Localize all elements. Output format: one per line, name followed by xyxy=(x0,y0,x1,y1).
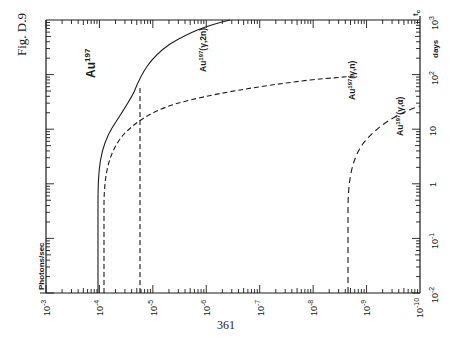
x-axis-title: Photons/sec xyxy=(37,242,46,290)
ytick-label: 10-2 xyxy=(428,287,440,303)
ytick-label: 103 xyxy=(428,16,440,30)
xtick-label: 10-5 xyxy=(147,300,159,316)
curve-gamma-n xyxy=(104,76,355,293)
xtick-label: 10-9 xyxy=(360,300,372,316)
label-gamma-alpha: Au197(γ,α) xyxy=(395,96,405,136)
curve-labels: Au197 Au197(γ,2n) Au197(γ,n) Au197(γ,α) xyxy=(83,28,405,136)
curves xyxy=(98,20,420,293)
x-axis-title-group: Photons/sec xyxy=(37,242,46,290)
axis-ticks xyxy=(46,20,420,293)
xtick-label: 10-8 xyxy=(307,300,319,316)
xtick-label: 10-7 xyxy=(254,300,266,316)
curve-gamma-2n xyxy=(98,20,230,293)
plot-frame xyxy=(40,16,420,293)
label-gamma-n: Au197(γ,n) xyxy=(347,61,357,100)
ytick-label: 102 xyxy=(428,71,440,85)
y-axis-title: days xyxy=(431,39,440,58)
xtick-label: 10-6 xyxy=(200,300,212,316)
page-number: 361 xyxy=(217,318,235,333)
xtick-label: 10-4 xyxy=(93,300,105,316)
chart: 10-3 10-4 10-5 10-6 10-7 10-8 10-9 10-10… xyxy=(0,0,459,338)
axis-label-bottom: 10-3 10-4 10-5 10-6 10-7 10-8 10-9 10-10 xyxy=(40,298,425,318)
tc-label: tc xyxy=(411,9,421,16)
ytick-label: 10 xyxy=(428,126,438,136)
axis-label-right: 103 102 10 1 10-1 10-2 days tc xyxy=(411,9,440,303)
xtick-label: 10-3 xyxy=(40,300,52,316)
xtick-label: 10-10 xyxy=(413,298,425,318)
curve-gamma-alpha xyxy=(348,106,420,293)
ytick-label: 10-1 xyxy=(428,233,440,249)
label-gamma-2n: Au197(γ,2n) xyxy=(198,28,208,72)
ytick-label: 1 xyxy=(428,182,438,187)
chart-title: Au197 xyxy=(83,48,98,78)
